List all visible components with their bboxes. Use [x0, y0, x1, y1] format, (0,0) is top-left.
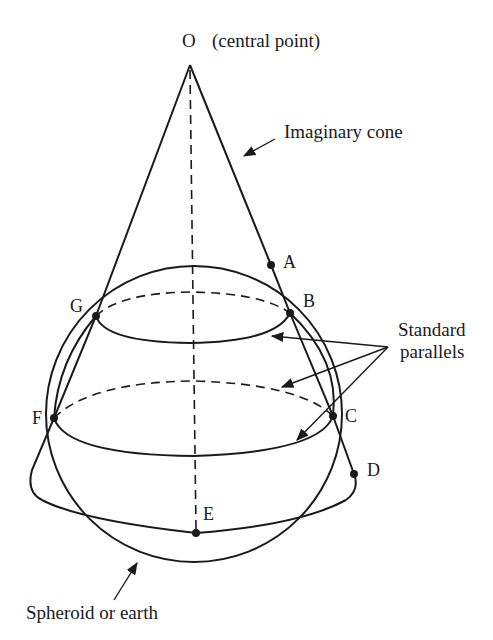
parallels-arrow-1 — [272, 336, 388, 347]
label-O: O — [182, 30, 196, 51]
sphere-pointer-arrow — [114, 563, 137, 600]
label-C: C — [345, 406, 357, 426]
label-E: E — [203, 504, 214, 524]
point-D — [350, 470, 358, 478]
cone-left-side — [30, 65, 190, 500]
label-standard: Standard — [398, 319, 466, 340]
cone-pointer-arrow — [244, 139, 275, 156]
point-C — [329, 412, 337, 420]
point-E — [192, 529, 200, 537]
label-B: B — [303, 291, 315, 311]
lower-parallel-front — [54, 416, 333, 456]
label-parallels: parallels — [400, 341, 464, 362]
label-F: F — [32, 408, 42, 428]
point-G — [92, 312, 100, 320]
point-A — [267, 261, 275, 269]
parallels-arrow-2 — [282, 347, 388, 387]
conic-projection-diagram: O (central point) Imaginary cone A B G S… — [0, 0, 493, 640]
cone-bottom-rim — [42, 500, 346, 533]
label-D: D — [367, 460, 380, 480]
label-central-point: (central point) — [212, 30, 320, 52]
label-spheroid: Spheroid or earth — [26, 602, 158, 623]
point-B — [286, 309, 294, 317]
central-axis-dashed — [190, 70, 196, 530]
label-G: G — [70, 296, 83, 316]
point-F — [50, 414, 58, 422]
label-A: A — [283, 252, 296, 272]
label-imaginary-cone: Imaginary cone — [284, 121, 403, 142]
